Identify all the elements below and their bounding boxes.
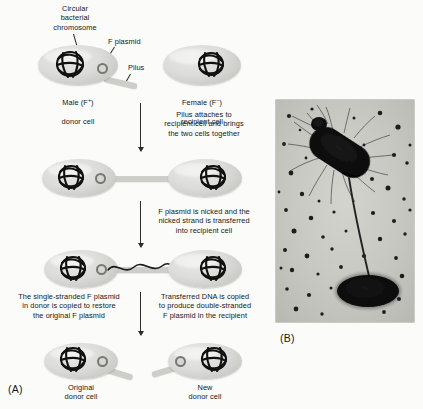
chromosome-male-stage3 <box>58 254 88 282</box>
panel-a-letter: (A) <box>8 383 23 395</box>
caption-divider <box>140 292 141 320</box>
step-2-caption: F plasmid is nicked and the nicked stran… <box>146 207 262 235</box>
f-plasmid-male-stage1 <box>97 63 108 74</box>
label-original-donor-cell: Original donor cell <box>44 383 118 402</box>
male-donor-line2: donor cell <box>62 117 95 126</box>
chromosome-male-stage1 <box>54 49 86 79</box>
label-new-donor-cell: New donor cell <box>168 383 242 402</box>
pilus-stub-stage1 <box>103 76 137 89</box>
female-recipient-line1: Female (F–) <box>182 98 222 107</box>
label-f-plasmid: F plasmid <box>108 37 164 46</box>
panel-a-diagram: Circular bacterial chromosome F plasmid … <box>0 0 262 409</box>
label-circular-chromosome: Circular bacterial chromosome <box>26 4 124 32</box>
panel-b-micrograph: (B) <box>262 0 423 409</box>
chromosome-female-stage2 <box>198 163 228 191</box>
flow-arrow-3 <box>140 318 141 335</box>
step-3-caption-right: Transferred DNA is copied to produce dou… <box>146 292 264 320</box>
f-plasmid-male-stage2 <box>95 173 106 184</box>
flow-arrow-2 <box>140 201 141 247</box>
pilus-bridge-stage2 <box>110 176 174 182</box>
flow-arrow-1 <box>140 103 141 151</box>
f-plasmid-new-donor <box>175 356 186 367</box>
transferred-strand-stage3 <box>106 258 176 278</box>
step-1-caption: Pilus attaches to recipient cell and bri… <box>148 110 260 138</box>
label-pilus: Pilus <box>128 63 162 72</box>
male-donor-line1: Male (F+) <box>62 98 93 107</box>
electron-micrograph-image <box>276 100 414 322</box>
panel-b-letter: (B) <box>280 332 295 344</box>
chromosome-new-donor <box>199 345 229 373</box>
step-3-caption-left: The single-stranded F plasmid in donor i… <box>2 292 136 320</box>
chromosome-female-stage3 <box>198 254 228 282</box>
f-plasmid-original-donor <box>97 356 108 367</box>
chromosome-female-stage1 <box>196 50 226 78</box>
label-male-donor-cell: Male (F+) donor cell <box>38 89 118 127</box>
chromosome-male-stage2 <box>56 163 86 191</box>
chromosome-original-donor <box>58 345 88 373</box>
